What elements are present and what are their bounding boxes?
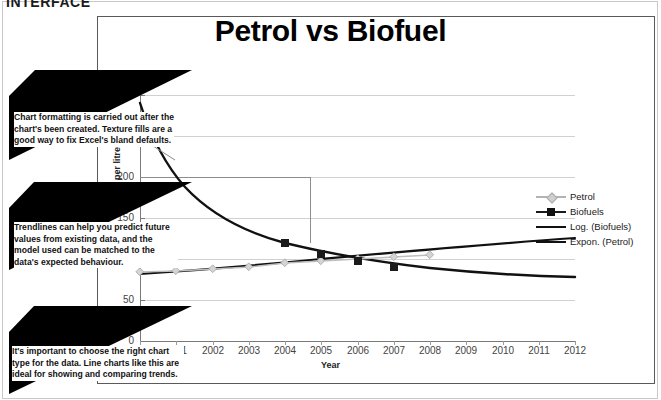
callout-trendlines: Trendlines can help you predict future v… xyxy=(14,222,178,268)
callout-formatting: Chart formatting is carried out after th… xyxy=(14,112,174,147)
page-root: INTERFACE Petrol vs Biofuel 300 250 200 … xyxy=(0,0,661,400)
callout-charttype: It's important to choose the right chart… xyxy=(12,346,184,381)
callout-leader-lines xyxy=(0,0,661,400)
leader-pointer-1 xyxy=(153,146,175,160)
